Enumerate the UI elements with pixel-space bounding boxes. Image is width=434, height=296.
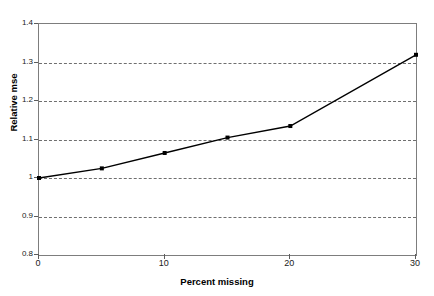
x-tick-label: 20 — [269, 258, 309, 268]
data-point-marker — [414, 53, 418, 57]
y-tick-label: 1 — [0, 172, 33, 181]
series-layer — [39, 24, 416, 255]
data-point-marker — [226, 136, 230, 140]
y-tick-label: 1.4 — [0, 18, 33, 27]
plot-inner — [39, 24, 416, 255]
data-point-marker — [100, 166, 104, 170]
x-tick-label: 30 — [395, 258, 434, 268]
x-axis-label: Percent missing — [0, 276, 434, 287]
x-tick-label: 0 — [18, 258, 58, 268]
relative-mse-chart: Relative mse 0.80.911.11.21.31.4 0102030… — [0, 0, 434, 296]
plot-area — [38, 23, 417, 256]
y-tick-label: 1.3 — [0, 57, 33, 66]
data-point-marker — [288, 124, 292, 128]
x-tick-label: 10 — [144, 258, 184, 268]
y-tick-label: 0.9 — [0, 211, 33, 220]
data-point-marker — [37, 176, 41, 180]
y-tick-label: 1.1 — [0, 134, 33, 143]
y-tick-label: 1.2 — [0, 95, 33, 104]
series-line — [39, 55, 416, 178]
data-point-marker — [163, 151, 167, 155]
y-tick-label: 0.8 — [0, 249, 33, 258]
chart-title — [0, 0, 434, 3]
